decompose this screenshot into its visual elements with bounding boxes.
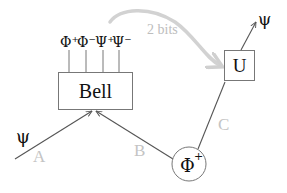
- channel-a: ψ A: [15, 111, 92, 166]
- unitary-box: U: [225, 51, 255, 81]
- output: ψ: [241, 9, 271, 50]
- channel-b: B: [96, 111, 173, 160]
- output-line: [241, 22, 256, 50]
- classical-link-label: 2 bits: [147, 22, 178, 37]
- bell-box-label: Bell: [79, 80, 113, 102]
- unitary-box-label: U: [233, 55, 247, 76]
- output-state-label: ψ: [258, 9, 271, 29]
- bell-box: Bell: [59, 73, 133, 110]
- bell-outcomes: Φ⁺ Φ⁻ Ψ⁺ Ψ⁻: [60, 34, 132, 72]
- channel-b-label: B: [134, 141, 145, 160]
- channel-c-label: C: [218, 115, 229, 134]
- entangled-source: Φ +: [172, 147, 206, 181]
- entangled-source-superscript: +: [194, 150, 203, 163]
- channel-a-label: A: [33, 147, 46, 166]
- outcome-phi-minus: Φ⁻: [77, 34, 96, 50]
- channel-c: C: [198, 82, 229, 149]
- entangled-source-label: Φ: [180, 155, 195, 176]
- outcome-psi-minus: Ψ⁻: [112, 34, 132, 50]
- teleportation-diagram: 2 bits Φ⁺ Φ⁻ Ψ⁺ Ψ⁻ Bell ψ A B C Φ +: [0, 0, 287, 193]
- input-state-label: ψ: [16, 126, 30, 147]
